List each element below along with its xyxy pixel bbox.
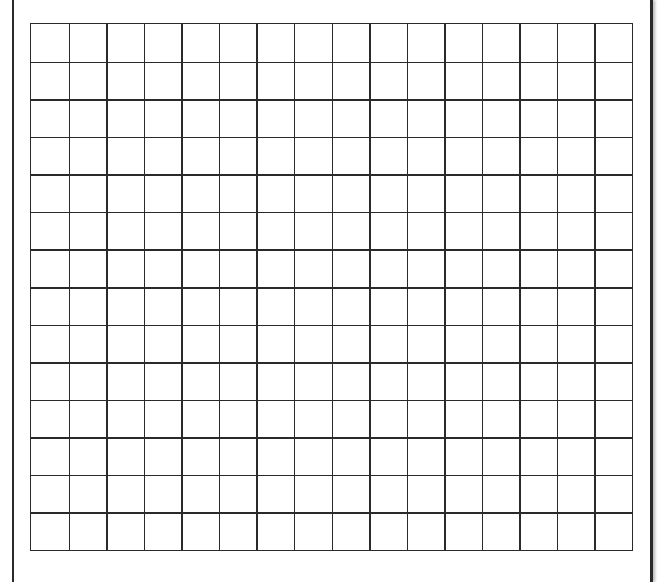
- grid-row-line: [31, 174, 632, 176]
- grid-row-line: [31, 287, 632, 289]
- grid-row-line: [31, 99, 632, 101]
- grid-row-line: [31, 512, 632, 514]
- grid-row-line: [31, 249, 632, 251]
- grid-row-line: [31, 362, 632, 364]
- page-border-left: [12, 0, 14, 582]
- grid-row-line: [31, 325, 632, 327]
- grid-row-line: [31, 437, 632, 439]
- grid-row-line: [31, 475, 632, 477]
- page-border-right: [650, 0, 653, 582]
- grid-row-line: [31, 212, 632, 214]
- grid-row-line: [31, 137, 632, 139]
- grid-row-line: [31, 62, 632, 64]
- graph-paper-grid: [30, 23, 633, 551]
- grid-row-line: [31, 400, 632, 402]
